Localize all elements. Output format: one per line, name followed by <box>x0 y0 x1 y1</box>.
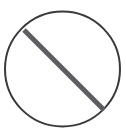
prohibition-sign-icon <box>0 0 126 137</box>
symbol-canvas <box>0 0 126 137</box>
